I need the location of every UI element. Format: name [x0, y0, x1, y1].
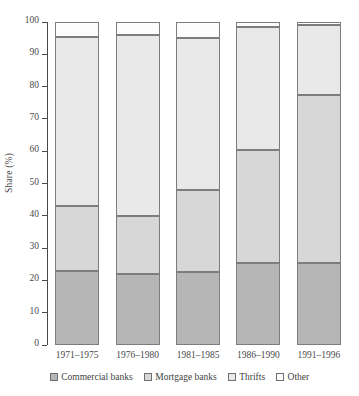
- legend-swatch-icon: [228, 373, 236, 381]
- bar-segment: [297, 95, 341, 263]
- y-axis-tick-label: 100: [12, 15, 39, 25]
- bar-segment: [176, 38, 220, 190]
- legend-swatch-icon: [276, 373, 284, 381]
- bar-segment: [116, 35, 160, 216]
- bar-segment: [176, 272, 220, 345]
- bar-segment: [297, 263, 341, 345]
- y-axis-tick-label: 30: [12, 241, 39, 251]
- y-axis-title-text: Share (%): [4, 152, 14, 192]
- plot-area: [47, 22, 349, 345]
- bar-column: [176, 22, 220, 345]
- y-axis-tick-label: 0: [12, 338, 39, 348]
- bar-segment: [116, 274, 160, 345]
- y-axis-tick-label: 70: [12, 112, 39, 122]
- legend-item-label: Mortgage banks: [155, 372, 216, 382]
- legend-item-label: Commercial banks: [61, 372, 133, 382]
- bar-segment: [236, 150, 280, 263]
- bar-segment: [297, 22, 341, 25]
- bar-column: [116, 22, 160, 345]
- bar-column: [55, 22, 99, 345]
- y-axis-tick-label: 80: [12, 80, 39, 90]
- bar-segment: [116, 216, 160, 274]
- bar-segment: [55, 37, 99, 207]
- legend-item[interactable]: Other: [276, 372, 309, 382]
- legend-item-label: Other: [288, 372, 310, 382]
- bar-segment: [236, 263, 280, 345]
- y-axis-tick-label: 50: [12, 177, 39, 187]
- bar-segment: [236, 27, 280, 150]
- y-axis-tick-label: 10: [12, 306, 39, 316]
- chart-legend: Commercial banksMortgage banksThriftsOth…: [0, 372, 359, 382]
- bar-segment: [297, 25, 341, 94]
- bar-column: [297, 22, 341, 345]
- legend-swatch-icon: [144, 373, 152, 381]
- bar-segment: [176, 22, 220, 38]
- y-axis-tick-label: 90: [12, 47, 39, 57]
- legend-item[interactable]: Thrifts: [228, 372, 265, 382]
- legend-item[interactable]: Commercial banks: [50, 372, 133, 382]
- legend-item[interactable]: Mortgage banks: [144, 372, 217, 382]
- bar-segment: [236, 22, 280, 27]
- bar-segment: [116, 22, 160, 35]
- y-axis-tick-label: 60: [12, 144, 39, 154]
- stacked-bar-chart: Share (%) 0102030405060708090100 1971–19…: [0, 0, 359, 396]
- bar-segment: [176, 190, 220, 272]
- bar-column: [236, 22, 280, 345]
- legend-swatch-icon: [50, 373, 58, 381]
- y-axis-tick-label: 40: [12, 209, 39, 219]
- legend-item-label: Thrifts: [239, 372, 265, 382]
- bar-segment: [55, 22, 99, 37]
- x-axis-label: 1991–1996: [282, 350, 356, 360]
- bar-segment: [55, 206, 99, 271]
- y-axis-tick-label: 20: [12, 273, 39, 283]
- bar-segment: [55, 271, 99, 345]
